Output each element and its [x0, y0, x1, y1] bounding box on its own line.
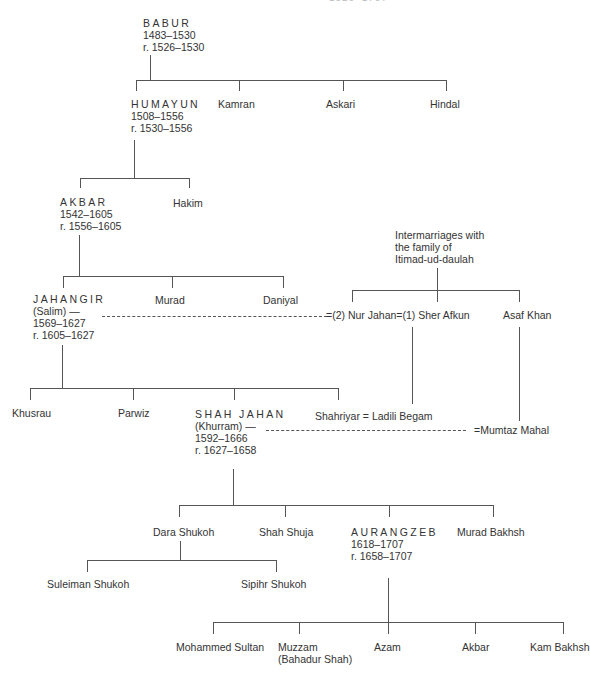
node-alias: (Salim) — [33, 305, 105, 317]
connector [180, 541, 181, 560]
node-name: Muzzam [278, 641, 352, 653]
connector [213, 622, 564, 623]
connector [150, 55, 151, 80]
connector [239, 80, 240, 91]
connector [30, 388, 31, 400]
node-reign: r. 1526–1530 [143, 41, 204, 53]
connector [283, 276, 284, 288]
node-aurangzeb: AURANGZEB 1618–1707 r. 1658–1707 [351, 526, 438, 562]
connector [80, 178, 190, 179]
connector [62, 345, 63, 388]
node-parwiz: Parwiz [118, 407, 150, 419]
note-line: the family of [395, 241, 484, 253]
connector [133, 388, 134, 400]
node-shahriyar-ladili-begam: Shahriyar = Ladili Begam [315, 410, 433, 422]
connector [493, 505, 494, 517]
node-reign: r. 1556–1605 [60, 220, 121, 232]
node-lifespan: 1618–1707 [351, 538, 438, 550]
connector [189, 178, 190, 188]
node-mumtaz-mahal: =Mumtaz Mahal [474, 424, 549, 436]
node-lifespan: 1542–1605 [60, 208, 121, 220]
node-muzzam: Muzzam (Bahadur Shah) [278, 641, 352, 665]
node-name: HUMAYUN [131, 98, 200, 110]
connector [475, 622, 476, 634]
node-mohammed-sultan: Mohammed Sultan [176, 641, 264, 653]
connector [352, 290, 520, 291]
connector [412, 327, 413, 404]
node-dara-shukoh: Dara Shukoh [153, 526, 214, 538]
connector [172, 276, 173, 288]
connector [352, 290, 353, 302]
node-reign: r. 1530–1556 [131, 122, 200, 134]
node-name: SHAH JAHAN [195, 408, 286, 420]
node-name: BABUR [143, 17, 204, 29]
connector [179, 505, 180, 517]
node-reign: r. 1627–1658 [195, 444, 286, 456]
connector [519, 327, 520, 421]
node-lifespan: 1592–1666 [195, 432, 286, 444]
node-akbar-son-of-aurangzeb: Akbar [462, 641, 489, 653]
node-hakim: Hakim [173, 197, 203, 209]
node-asaf-khan: Asaf Khan [503, 309, 551, 321]
connector [388, 578, 389, 634]
connector [30, 388, 339, 389]
connector [63, 276, 64, 288]
partial-header: — — — — — 1526–1707 [255, 0, 388, 3]
connector [63, 276, 284, 277]
node-jahangir: JAHANGIR (Salim) — 1569–1627 r. 1605–162… [33, 293, 105, 341]
connector [136, 80, 447, 81]
node-daniyal: Daniyal [263, 294, 298, 306]
connector [285, 505, 286, 517]
connector [299, 622, 300, 634]
marriage-dashed-line [102, 316, 327, 317]
node-babur: BABUR 1483–1530 r. 1526–1530 [143, 17, 204, 53]
node-murad: Murad [155, 294, 185, 306]
connector [87, 560, 277, 561]
node-lifespan: 1508–1556 [131, 110, 200, 122]
connector [343, 80, 344, 91]
node-murad-bakhsh: Murad Bakhsh [457, 526, 525, 538]
node-name: AKBAR [60, 196, 121, 208]
node-azam: Azam [374, 641, 401, 653]
note-line: Itimad-ud-daulah [395, 253, 484, 265]
connector [276, 560, 277, 572]
node-shah-jahan: SHAH JAHAN (Khurram) — 1592–1666 r. 1627… [195, 408, 286, 456]
node-nur-jahan-sher-afkun: =(2) Nur Jahan=(1) Sher Afkun [326, 309, 470, 321]
node-kamran: Kamran [218, 98, 255, 110]
connector [389, 505, 390, 517]
connector [134, 140, 135, 178]
node-shah-shuja: Shah Shuja [259, 526, 313, 538]
connector [179, 505, 494, 506]
node-lifespan: 1569–1627 [33, 317, 105, 329]
node-kam-bakhsh: Kam Bakhsh [530, 641, 590, 653]
node-alias: (Khurram) — [195, 420, 286, 432]
node-reign: r. 1658–1707 [351, 550, 438, 562]
connector [338, 388, 339, 400]
connector [213, 622, 214, 634]
node-humayun: HUMAYUN 1508–1556 r. 1530–1556 [131, 98, 200, 134]
marriage-dashed-line [266, 430, 466, 431]
node-suleiman-shukoh: Suleiman Shukoh [47, 578, 129, 590]
node-name: JAHANGIR [33, 293, 105, 305]
connector [233, 469, 234, 505]
node-khusrau: Khusrau [12, 407, 51, 419]
node-lifespan: 1483–1530 [143, 29, 204, 41]
connector [519, 290, 520, 302]
connector [234, 388, 235, 400]
connector [437, 268, 438, 302]
connector [87, 560, 88, 572]
node-sipihr-shukoh: Sipihr Shukoh [241, 578, 306, 590]
node-itimad-family: Intermarriages with the family of Itimad… [395, 229, 484, 265]
connector [563, 622, 564, 634]
connector [79, 235, 80, 276]
connector [136, 80, 137, 91]
node-name: AURANGZEB [351, 526, 438, 538]
node-askari: Askari [326, 98, 355, 110]
node-reign: r. 1605–1627 [33, 329, 105, 341]
node-akbar: AKBAR 1542–1605 r. 1556–1605 [60, 196, 121, 232]
node-alias: (Bahadur Shah) [278, 653, 352, 665]
connector [446, 80, 447, 91]
note-line: Intermarriages with [395, 229, 484, 241]
node-hindal: Hindal [430, 98, 460, 110]
connector [80, 178, 81, 188]
